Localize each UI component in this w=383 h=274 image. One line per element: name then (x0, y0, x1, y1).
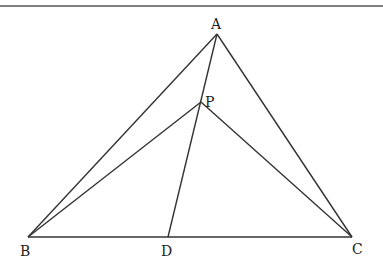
point-label-P: P (205, 94, 214, 110)
segment-AB (28, 34, 217, 237)
segment-AC (217, 34, 352, 237)
geometry-diagram: ABCDP (0, 0, 383, 274)
point-label-C: C (352, 241, 363, 257)
segment-PB (28, 102, 201, 237)
point-label-A: A (210, 16, 222, 32)
segment-AD (168, 34, 217, 237)
point-label-D: D (161, 243, 172, 259)
segments (28, 34, 352, 237)
point-label-B: B (20, 243, 30, 259)
